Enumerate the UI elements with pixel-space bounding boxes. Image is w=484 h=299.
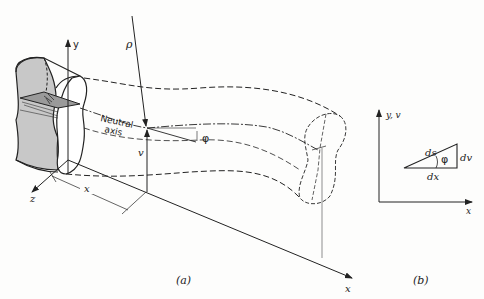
- x-axis-label-b: x: [466, 206, 471, 216]
- x-axis-label-a: x: [345, 283, 351, 294]
- caption-b: (b): [413, 274, 429, 287]
- panel-b: y, v x ds φ dv dx (b): [379, 110, 472, 287]
- dx-label: dx: [427, 171, 439, 182]
- end-cross-section: [299, 114, 346, 204]
- beam-bottom-edge: [66, 171, 300, 198]
- ds-label: ds: [425, 147, 437, 158]
- beam-bending-figure: y z x x: [0, 0, 484, 299]
- panel-a: y z x x: [16, 16, 352, 294]
- figure-svg: y z x x: [0, 0, 484, 299]
- beam-top-edge: [84, 78, 340, 116]
- y-axis-label-b: y, v: [385, 110, 401, 120]
- tangent-line: [147, 128, 196, 142]
- beam-cross-section-block: [16, 58, 87, 174]
- deflection-label: v: [138, 147, 144, 158]
- radius-line: [132, 16, 146, 126]
- angle-label-b: φ: [441, 153, 448, 166]
- x-axis-a: [68, 160, 352, 278]
- radius-label: ρ: [125, 38, 133, 51]
- distance-x-label: x: [84, 183, 90, 194]
- caption-a: (a): [176, 274, 191, 287]
- dv-label: dv: [460, 152, 472, 163]
- slope-angle-label: φ: [202, 132, 209, 145]
- z-axis-label: z: [29, 193, 36, 204]
- y-axis-label-a: y: [73, 39, 79, 50]
